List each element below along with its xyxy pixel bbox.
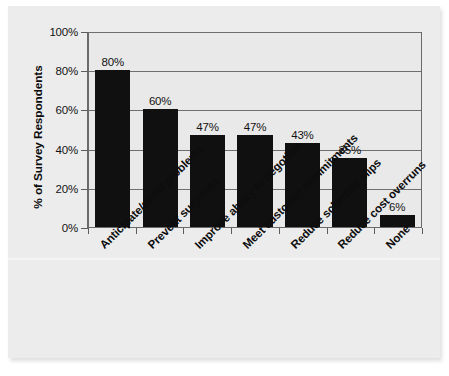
- y-axis-tick: [81, 228, 88, 229]
- y-axis-tick: [81, 110, 88, 111]
- x-axis-tick: [136, 228, 137, 234]
- y-axis-title: % of Survey Respondents: [31, 47, 45, 227]
- bar[interactable]: 6%: [380, 215, 415, 227]
- bar[interactable]: 80%: [95, 70, 130, 227]
- y-axis-tick: [81, 32, 88, 33]
- x-axis-tick: [374, 228, 375, 234]
- x-axis-tick: [279, 228, 280, 234]
- x-axis-tick: [231, 228, 232, 234]
- x-axis-tick: [327, 228, 328, 234]
- x-axis-tick: [422, 228, 423, 234]
- y-axis-tick: [81, 71, 88, 72]
- bar-chart: 80%60%47%47%43%35%6% 0%20%40%60%80%100% …: [8, 6, 440, 358]
- x-axis-tick: [183, 228, 184, 234]
- bar-value-label: 80%: [101, 56, 123, 68]
- y-axis-tick-label: 100%: [32, 26, 78, 38]
- bar-value-label: 47%: [196, 121, 218, 133]
- y-axis-line: [87, 32, 88, 229]
- y-axis-tick: [81, 189, 88, 190]
- bar-value-label: 60%: [149, 95, 171, 107]
- bar-value-label: 47%: [244, 121, 266, 133]
- x-axis-tick: [88, 228, 89, 234]
- y-axis-tick: [81, 150, 88, 151]
- bar-group: 80%: [89, 33, 136, 227]
- chart-screenshot: 80%60%47%47%43%35%6% 0%20%40%60%80%100% …: [0, 0, 449, 376]
